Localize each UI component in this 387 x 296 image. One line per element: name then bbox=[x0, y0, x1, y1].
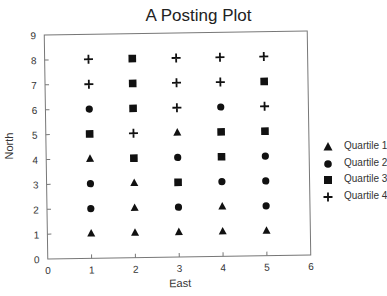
plot-frame bbox=[44, 31, 310, 259]
square-marker bbox=[129, 105, 137, 113]
square-marker bbox=[260, 78, 268, 86]
triangle-marker bbox=[218, 202, 226, 210]
plus-marker bbox=[84, 55, 93, 64]
circle-marker bbox=[262, 202, 269, 209]
y-tick-label: 4 bbox=[32, 155, 38, 166]
y-axis: 0123456789 bbox=[30, 30, 51, 265]
circle-marker bbox=[262, 152, 269, 159]
square-marker bbox=[128, 55, 136, 63]
plus-marker bbox=[84, 80, 93, 89]
plus-marker bbox=[216, 78, 225, 87]
triangle-marker bbox=[219, 227, 227, 235]
plus-marker bbox=[259, 52, 268, 61]
x-tick-label: 0 bbox=[45, 265, 51, 276]
circle-marker-icon bbox=[322, 158, 334, 170]
circle-marker bbox=[86, 105, 93, 112]
x-axis: 0123456 bbox=[45, 251, 314, 276]
plus-marker bbox=[172, 78, 181, 87]
plus-marker bbox=[172, 53, 181, 62]
triangle-marker-icon bbox=[322, 141, 334, 153]
square-marker bbox=[130, 154, 138, 162]
y-tick-label: 0 bbox=[34, 254, 40, 265]
circle-marker bbox=[174, 154, 181, 161]
circle-marker bbox=[217, 103, 224, 110]
y-tick-label: 2 bbox=[33, 204, 39, 215]
y-tick-label: 6 bbox=[32, 105, 38, 116]
y-tick-label: 3 bbox=[33, 180, 39, 191]
circle-marker bbox=[175, 204, 182, 211]
y-tick-label: 5 bbox=[32, 130, 38, 141]
x-tick-label: 4 bbox=[220, 262, 226, 273]
data-points bbox=[84, 52, 271, 237]
square-marker bbox=[261, 127, 269, 135]
x-tick-label: 5 bbox=[264, 262, 270, 273]
x-tick-label: 3 bbox=[177, 263, 183, 274]
y-tick-label: 7 bbox=[31, 80, 37, 91]
y-tick-label: 1 bbox=[34, 229, 40, 240]
triangle-marker bbox=[130, 178, 138, 186]
x-axis-label: East bbox=[169, 277, 191, 289]
triangle-marker bbox=[131, 203, 139, 211]
y-tick-label: 9 bbox=[30, 30, 36, 41]
x-tick-label: 2 bbox=[133, 264, 139, 275]
triangle-marker bbox=[86, 154, 94, 162]
x-tick-label: 6 bbox=[308, 261, 314, 272]
triangle-marker bbox=[175, 228, 183, 236]
triangle-marker bbox=[131, 228, 139, 236]
triangle-marker bbox=[173, 128, 181, 136]
plus-marker-icon bbox=[322, 191, 334, 203]
square-marker bbox=[218, 153, 226, 161]
triangle-marker bbox=[87, 229, 95, 237]
triangle-marker bbox=[262, 226, 270, 234]
square-marker bbox=[174, 178, 182, 186]
square-marker bbox=[129, 80, 137, 88]
x-tick-label: 1 bbox=[89, 264, 95, 275]
circle-marker bbox=[218, 178, 225, 185]
plus-marker bbox=[129, 129, 138, 138]
square-marker bbox=[217, 128, 225, 136]
square-marker bbox=[86, 130, 94, 138]
plus-marker bbox=[260, 102, 269, 111]
square-marker-icon bbox=[322, 174, 334, 186]
circle-marker bbox=[262, 177, 269, 184]
plus-marker bbox=[172, 103, 181, 112]
circle-marker bbox=[87, 180, 94, 187]
y-tick-label: 8 bbox=[31, 55, 37, 66]
circle-marker bbox=[87, 205, 94, 212]
y-axis-label: North bbox=[3, 133, 15, 160]
plus-marker bbox=[215, 53, 224, 62]
